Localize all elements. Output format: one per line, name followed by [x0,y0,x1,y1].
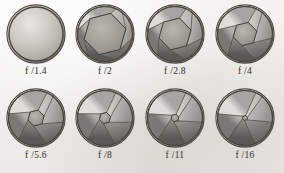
aperture-iris-diagram [74,87,136,149]
aperture-cell-2-8: f /2.8 [140,3,210,77]
aperture-iris-diagram [74,3,136,65]
aperture-iris-diagram [144,3,206,65]
aperture-label: f /8 [70,150,140,161]
aperture-label: f /11 [140,150,210,161]
aperture-iris-diagram [214,3,276,65]
aperture-label: f /5.6 [1,150,71,161]
aperture-cell-11: f /11 [140,87,210,161]
aperture-cell-1-4: f /1.4 [1,3,71,77]
aperture-series-grid: f /1.4f /2f /2.8f /4f /5.6f /8f /11f /16 [0,0,284,173]
aperture-iris-diagram [5,87,67,149]
aperture-cell-16: f /16 [210,87,280,161]
aperture-label: f /4 [210,66,280,77]
aperture-label: f /1.4 [1,66,71,77]
aperture-iris-diagram [144,87,206,149]
aperture-cell-4: f /4 [210,3,280,77]
aperture-label: f /2 [70,66,140,77]
aperture-cell-8: f /8 [70,87,140,161]
aperture-label: f /16 [210,150,280,161]
aperture-cell-2: f /2 [70,3,140,77]
aperture-cell-5-6: f /5.6 [1,87,71,161]
aperture-iris-diagram [5,3,67,65]
aperture-label: f /2.8 [140,66,210,77]
aperture-iris-diagram [214,87,276,149]
